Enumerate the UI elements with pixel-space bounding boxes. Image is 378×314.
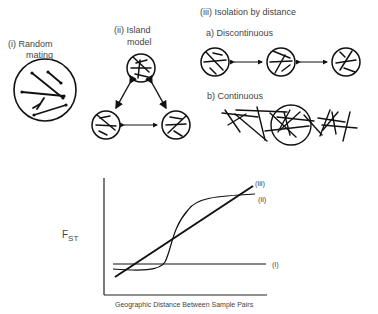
chart-axes — [104, 178, 267, 295]
continuous-label: b) Continuous — [207, 92, 263, 101]
y-axis-label: FST — [62, 230, 78, 243]
island-model-label-1: (ii) Island — [114, 26, 151, 35]
x-axis-label: Geographic Distance Between Sample Pairs — [115, 301, 253, 308]
isolation-title: (iii) Isolation by distance — [200, 8, 296, 17]
continuous-population — [222, 105, 357, 145]
series-i-label: (i) — [272, 261, 279, 269]
series-iii-line — [115, 186, 253, 277]
y-axis-label-sub: ST — [68, 234, 78, 243]
discontinuous-populations — [201, 48, 360, 76]
random-mating-label-1: (i) Random — [8, 40, 53, 49]
series-ii-label: (ii) — [258, 196, 266, 204]
random-mating-label-2: mating — [26, 51, 53, 60]
island-model-label-2: model — [127, 38, 152, 47]
chart-series — [113, 186, 266, 277]
series-iii-label: (iii) — [255, 180, 265, 188]
island-model-populations — [92, 54, 190, 139]
discontinuous-label: a) Discontinuous — [206, 29, 273, 38]
random-mating-population — [14, 59, 76, 121]
diagram-canvas — [0, 0, 378, 314]
